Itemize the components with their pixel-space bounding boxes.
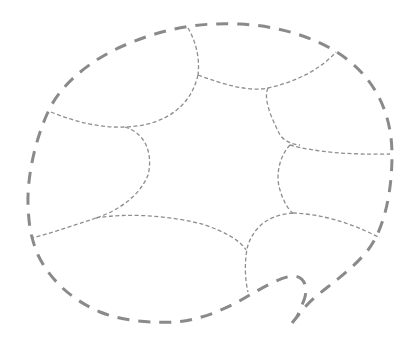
divider-right-lower <box>278 145 293 213</box>
divider-bottom-right <box>293 213 380 238</box>
divider-left-top <box>51 75 198 127</box>
divider-right-bulge <box>266 88 300 145</box>
divider-left-bottom <box>32 218 96 238</box>
divider-top-right <box>198 52 336 89</box>
outer-boundary <box>28 24 392 323</box>
divider-bottom-vertical <box>245 213 293 292</box>
divider-bottom-arc <box>96 215 246 250</box>
divider-right-mid <box>290 145 390 154</box>
divider-left-bulge <box>96 127 150 218</box>
divider-top <box>188 28 199 75</box>
region-diagram <box>0 0 419 347</box>
